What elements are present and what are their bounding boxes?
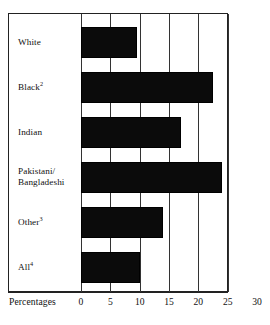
bar-chart: White Black2 Indian Pakistani/ Banglades…: [0, 0, 270, 325]
category-label-all-footnote: 4: [30, 260, 33, 267]
bar-other: [81, 207, 163, 238]
category-label-black-footnote: 2: [40, 80, 43, 87]
x-tick-label-20: 20: [188, 296, 208, 308]
x-tick-label-15: 15: [159, 296, 179, 308]
category-label-indian-text: Indian: [18, 127, 42, 137]
category-label-other: Other3: [18, 217, 80, 228]
bar-pakistani-bangladeshi: [81, 162, 222, 193]
bar-row-other: [81, 207, 227, 238]
gridline-25: [228, 14, 229, 292]
bar-row-black: [81, 72, 227, 103]
category-label-all-text: All: [18, 262, 30, 272]
x-tick-label-0: 0: [71, 296, 91, 308]
category-label-other-footnote: 3: [39, 215, 42, 222]
category-label-all: All4: [18, 262, 80, 273]
category-label-white-text: White: [18, 37, 41, 47]
category-label-pakistani-line2: Bangladeshi: [18, 177, 65, 187]
bar-all: [81, 252, 140, 283]
x-tick-label-30: 30: [247, 296, 267, 308]
x-tick-label-25: 25: [218, 296, 238, 308]
x-axis-title: Percentages: [9, 296, 56, 308]
category-label-indian: Indian: [18, 127, 80, 138]
x-tick-label-5: 5: [100, 296, 120, 308]
x-axis-line: [8, 292, 228, 293]
bar-row-pakistani-bangladeshi: [81, 162, 227, 193]
bar-row-all: [81, 252, 227, 283]
bar-white: [81, 27, 137, 58]
bar-indian: [81, 117, 181, 148]
category-label-black: Black2: [18, 82, 80, 93]
category-label-black-text: Black: [18, 82, 40, 92]
bar-black: [81, 72, 213, 103]
category-label-white: White: [18, 37, 80, 48]
x-tick-label-10: 10: [130, 296, 150, 308]
bar-row-indian: [81, 117, 227, 148]
bar-row-white: [81, 27, 227, 58]
category-label-pakistani-line1: Pakistani/: [18, 166, 55, 176]
category-label-other-text: Other: [18, 217, 39, 227]
category-label-pakistani-bangladeshi: Pakistani/ Bangladeshi: [18, 166, 80, 188]
